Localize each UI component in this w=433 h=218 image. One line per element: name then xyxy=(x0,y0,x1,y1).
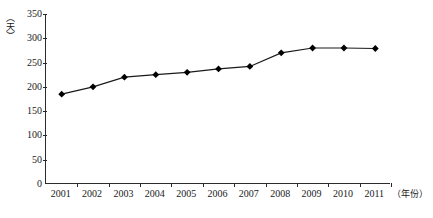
line-chart: （天） 050100150200250300350 20012002200320… xyxy=(0,0,433,218)
x-axis-tick-mark xyxy=(328,183,329,187)
y-axis-tick-label: 150 xyxy=(16,106,42,116)
y-axis-tick-label: 100 xyxy=(16,130,42,140)
y-axis-tick-mark xyxy=(43,87,47,88)
x-axis-tick-mark xyxy=(234,183,235,187)
x-axis-tick-mark xyxy=(266,183,267,187)
x-axis-tick-mark xyxy=(171,183,172,187)
data-point-marker xyxy=(341,45,348,52)
y-axis-tick-label: 350 xyxy=(16,9,42,19)
x-axis-tick-mark xyxy=(203,183,204,187)
data-point-marker xyxy=(215,65,222,72)
series-markers xyxy=(58,45,378,98)
y-axis-tick-mark xyxy=(43,14,47,15)
data-point-marker xyxy=(309,45,316,52)
y-axis-tick-mark xyxy=(43,160,47,161)
data-point-marker xyxy=(58,91,65,98)
data-point-marker xyxy=(372,45,379,52)
x-axis-tick-mark xyxy=(297,183,298,187)
y-axis-tick-label: 50 xyxy=(16,155,42,165)
x-axis-unit-label: （年份） xyxy=(392,188,428,200)
x-axis-tick-mark xyxy=(391,183,392,187)
data-point-marker xyxy=(278,49,285,56)
x-axis-tick-label: 2011 xyxy=(352,188,396,200)
data-point-marker xyxy=(184,69,191,76)
x-axis-tick-mark xyxy=(109,183,110,187)
x-axis-tick-mark xyxy=(360,183,361,187)
y-axis-tick-mark xyxy=(43,63,47,64)
y-axis-tick-mark xyxy=(43,111,47,112)
y-axis-tick-mark xyxy=(43,38,47,39)
y-axis-tick-label: 300 xyxy=(16,33,42,43)
data-point-marker xyxy=(90,83,97,90)
x-axis-tick-labels: 2001200220032004200520062007200820092010… xyxy=(45,188,390,204)
x-axis-tick-mark xyxy=(140,183,141,187)
data-point-marker xyxy=(121,74,128,81)
y-axis-tick-mark xyxy=(43,135,47,136)
data-series-layer xyxy=(46,14,391,184)
data-point-marker xyxy=(246,63,253,70)
y-axis-tick-label: 250 xyxy=(16,58,42,68)
y-axis-tick-label: 200 xyxy=(16,82,42,92)
x-axis-tick-mark xyxy=(77,183,78,187)
y-axis-tick-labels: 050100150200250300350 xyxy=(12,0,42,218)
plot-area xyxy=(45,14,390,184)
data-point-marker xyxy=(152,71,159,78)
